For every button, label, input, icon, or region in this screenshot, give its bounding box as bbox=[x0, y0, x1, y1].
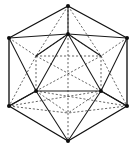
edge-B-G bbox=[9, 34, 68, 38]
edge-B-H bbox=[9, 38, 36, 91]
vertex-dot-upper-right-outer bbox=[125, 36, 129, 40]
vertex-dot-inner-left bbox=[34, 89, 38, 93]
edge-G-H bbox=[36, 34, 68, 91]
outer-edge-D-F bbox=[9, 106, 68, 141]
vertex-dot-inner-right bbox=[99, 89, 103, 93]
polyhedron-figure: Wireframe drawing of an icosahedron with… bbox=[0, 0, 136, 150]
hidden-edge-A-K bbox=[36, 6, 68, 56]
vertex-dot-top-apex bbox=[66, 4, 70, 8]
vertex-dot-bottom-apex bbox=[66, 139, 70, 143]
edge-C-G bbox=[68, 34, 127, 38]
vertex-dot-inner-top bbox=[66, 32, 70, 36]
edge-belt-right bbox=[101, 91, 127, 106]
edge-H-F bbox=[36, 91, 68, 141]
edge-G-shoulder-right bbox=[68, 34, 101, 56]
vertex-dot-lower-left-outer bbox=[7, 104, 11, 108]
vertex-dot-upper-left-outer bbox=[7, 36, 11, 40]
outer-edge-A-C bbox=[68, 6, 127, 38]
edge-G-shoulder-left bbox=[36, 34, 68, 56]
edge-I-F bbox=[68, 91, 101, 141]
hidden-edge-A-L bbox=[68, 6, 101, 56]
edge-G-I bbox=[68, 34, 101, 91]
edge-C-I bbox=[101, 38, 127, 91]
polyhedron-svg bbox=[0, 0, 136, 150]
hidden-edge-I-J bbox=[68, 91, 101, 113]
outer-edge-A-B bbox=[9, 6, 68, 38]
vertex-dot-lower-right-outer bbox=[125, 104, 129, 108]
outer-edge-E-F bbox=[68, 106, 127, 141]
